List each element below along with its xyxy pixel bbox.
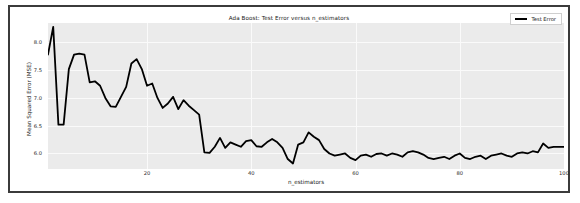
y-tick-label: 8.0 <box>34 39 42 45</box>
figure-frame: Ada Boost: Test Error versus n_estimator… <box>8 5 570 193</box>
legend: Test Error <box>510 13 562 25</box>
x-axis-label: n_estimators <box>48 179 564 185</box>
x-tick-label: 100 <box>559 170 569 176</box>
y-tick-label: 7.5 <box>34 67 42 73</box>
legend-swatch-test-error <box>515 18 527 20</box>
y-axis-tick-labels: 6.06.57.07.58.0 <box>10 23 46 169</box>
x-tick-label: 40 <box>248 170 255 176</box>
y-tick-label: 7.0 <box>34 95 42 101</box>
legend-label-test-error: Test Error <box>531 16 556 22</box>
x-tick-label: 80 <box>456 170 463 176</box>
series-test-error <box>48 23 564 169</box>
y-tick-label: 6.0 <box>34 150 42 156</box>
chart-title: Ada Boost: Test Error versus n_estimator… <box>10 15 568 21</box>
plot-area <box>48 23 564 169</box>
x-tick-label: 60 <box>352 170 359 176</box>
x-tick-label: 20 <box>144 170 151 176</box>
y-tick-label: 6.5 <box>34 123 42 129</box>
series-line <box>48 27 564 164</box>
